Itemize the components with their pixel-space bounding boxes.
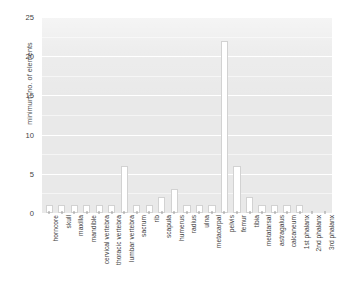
bar-slot (256, 17, 269, 213)
bar (221, 41, 228, 213)
x-tick-mark (174, 211, 175, 214)
bar-slot (306, 17, 319, 213)
x-tick-slot: lumbar vertebra (118, 215, 131, 293)
bar-slot (68, 17, 81, 213)
x-tick-mark (99, 211, 100, 214)
x-tick-slot: calcaneum (281, 215, 294, 293)
x-tick-mark (312, 211, 313, 214)
x-tick-mark (224, 211, 225, 214)
bar (233, 166, 240, 213)
x-tick-mark (49, 211, 50, 214)
bar-slot (318, 17, 331, 213)
y-tick-label: 25 (12, 13, 34, 22)
y-tick-label: 5 (12, 169, 34, 178)
bar-slot (206, 17, 219, 213)
x-tick-slot: skull (56, 215, 69, 293)
plot-area (42, 17, 332, 213)
bar-slot (281, 17, 294, 213)
bar-slot (106, 17, 119, 213)
bar-slot (143, 17, 156, 213)
x-tick-slot: tibia (243, 215, 256, 293)
y-tick-label: 20 (12, 52, 34, 61)
bar (121, 166, 128, 213)
x-tick-slot: cervical vertebra (93, 215, 106, 293)
bar-slot (43, 17, 56, 213)
x-tick-mark (299, 211, 300, 214)
x-tick-slot: mandible (81, 215, 94, 293)
x-tick-slot: sacrum (131, 215, 144, 293)
bar-slot (231, 17, 244, 213)
bar (171, 189, 178, 213)
x-tick-slot: metacarpal (206, 215, 219, 293)
x-tick-slot: pelvis (218, 215, 231, 293)
y-axis-tick-labels: 0510152025 (10, 0, 34, 293)
x-tick-label: 3rd phalanx (328, 215, 335, 250)
x-tick-mark (74, 211, 75, 214)
bar-slot (131, 17, 144, 213)
x-tick-slot: radius (181, 215, 194, 293)
x-tick-mark (287, 211, 288, 214)
x-tick-mark (199, 211, 200, 214)
bar-slot (156, 17, 169, 213)
x-tick-mark (124, 211, 125, 214)
x-tick-slot: astragalus (268, 215, 281, 293)
y-tick-label: 0 (12, 209, 34, 218)
x-tick-mark (324, 211, 325, 214)
bar-slot (218, 17, 231, 213)
bar-slot (81, 17, 94, 213)
x-tick-slot: 2nd phalanx (306, 215, 319, 293)
x-tick-mark (249, 211, 250, 214)
x-tick-slot: maxilla (68, 215, 81, 293)
bar-series (42, 17, 332, 213)
y-tick-label: 15 (12, 91, 34, 100)
x-tick-slot: rib (143, 215, 156, 293)
x-tick-mark (86, 211, 87, 214)
bar-slot (118, 17, 131, 213)
x-tick-mark (186, 211, 187, 214)
x-tick-slot: femur (231, 215, 244, 293)
bar-slot (168, 17, 181, 213)
bar-slot (56, 17, 69, 213)
bar-slot (193, 17, 206, 213)
y-tick-label: 10 (12, 130, 34, 139)
bar-slot (243, 17, 256, 213)
bar-slot (93, 17, 106, 213)
x-tick-mark (211, 211, 212, 214)
x-tick-slot: thoracic vertebra (106, 215, 119, 293)
x-tick-mark (111, 211, 112, 214)
x-tick-slot: metatarsal (256, 215, 269, 293)
x-axis-tick-labels: horncoreskullmaxillamandiblecervical ver… (42, 215, 332, 293)
x-tick-slot: 1st phalanx (293, 215, 306, 293)
x-tick-slot: scapula (156, 215, 169, 293)
x-tick-mark (274, 211, 275, 214)
bar-slot (268, 17, 281, 213)
bar-slot (293, 17, 306, 213)
x-tick-mark (149, 211, 150, 214)
bar-slot (181, 17, 194, 213)
x-tick-slot: humerus (168, 215, 181, 293)
x-tick-mark (262, 211, 263, 214)
x-tick-slot: ulna (193, 215, 206, 293)
x-tick-slot: 3rd phalanx (318, 215, 331, 293)
x-tick-mark (161, 211, 162, 214)
x-tick-slot: horncore (43, 215, 56, 293)
x-tick-mark (136, 211, 137, 214)
x-tick-mark (236, 211, 237, 214)
bar-chart-figure: minimum no. of elements 0510152025 hornc… (0, 0, 360, 293)
x-tick-mark (61, 211, 62, 214)
